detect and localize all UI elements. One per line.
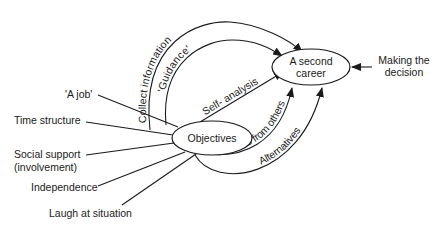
connector-social-support — [86, 143, 174, 155]
connector-time-structure — [86, 122, 173, 135]
second-career-node: A second career — [272, 49, 350, 85]
second-career-label-line2: career — [296, 67, 326, 79]
decision-label-line2: decision — [385, 66, 424, 78]
factor-a-job: 'A job' — [65, 88, 92, 100]
second-career-label-line1: A second — [289, 55, 332, 67]
path-label-self-analysis: Self- analysis — [200, 75, 260, 118]
objectives-label: Objectives — [187, 132, 236, 144]
objectives-node: Objectives — [172, 121, 252, 155]
connector-independence — [98, 152, 185, 186]
factor-social-support-sub: (involvement) — [14, 161, 77, 173]
factor-social-support: Social support — [14, 148, 81, 160]
factor-time-structure: Time structure — [14, 114, 81, 126]
decision-label-line1: Making the — [378, 54, 430, 66]
factor-independence: Independence — [31, 181, 98, 193]
factor-laugh-at-situation: Laugh at situation — [49, 207, 132, 219]
diagram-canvas: Collect information 'Guidance' Self- ana… — [0, 0, 437, 233]
